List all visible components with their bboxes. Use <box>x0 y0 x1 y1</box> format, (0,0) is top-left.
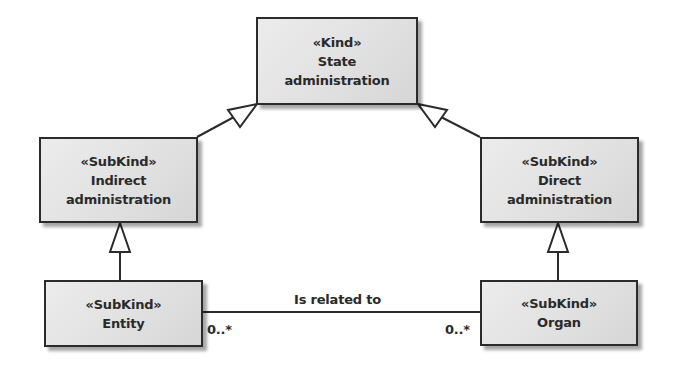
hollow-triangle-arrow-icon <box>228 104 257 127</box>
stereotype-label: «SubKind» <box>85 295 161 314</box>
class-name-line: administration <box>507 190 612 209</box>
class-name-line: Entity <box>102 314 144 333</box>
class-state-administration[interactable]: «Kind» State administration <box>256 17 418 105</box>
stereotype-label: «SubKind» <box>521 294 597 313</box>
class-direct-administration[interactable]: «SubKind» Direct administration <box>480 137 639 223</box>
hollow-triangle-arrow-icon <box>110 223 130 252</box>
association-label: Is related to <box>294 292 381 307</box>
generalization-indirect-to-state <box>197 104 257 137</box>
stereotype-label: «SubKind» <box>521 152 597 171</box>
class-name-line: administration <box>285 71 390 90</box>
class-name-line: Organ <box>537 313 581 332</box>
class-name-line: State <box>318 52 356 71</box>
multiplicity-organ-end: 0..* <box>445 322 470 337</box>
stereotype-label: «SubKind» <box>80 152 156 171</box>
diagram-canvas: «Kind» State administration «SubKind» In… <box>0 0 674 372</box>
generalization-direct-to-state <box>418 104 480 137</box>
hollow-triangle-arrow-icon <box>418 104 447 127</box>
generalization-organ-to-direct <box>548 223 568 280</box>
hollow-triangle-arrow-icon <box>548 223 568 252</box>
stereotype-label: «Kind» <box>313 33 362 52</box>
class-name-line: administration <box>66 190 171 209</box>
generalization-entity-to-indirect <box>110 223 130 280</box>
multiplicity-entity-end: 0..* <box>207 322 232 337</box>
class-organ[interactable]: «SubKind» Organ <box>480 280 638 346</box>
class-name-line: Indirect <box>91 171 146 190</box>
class-name-line: Direct <box>538 171 581 190</box>
class-indirect-administration[interactable]: «SubKind» Indirect administration <box>39 137 198 223</box>
class-entity[interactable]: «SubKind» Entity <box>44 280 203 347</box>
